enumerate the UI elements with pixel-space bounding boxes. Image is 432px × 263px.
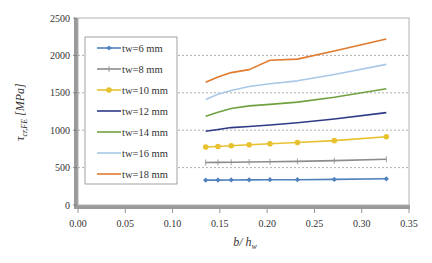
y-tick-label: 2500 xyxy=(50,13,70,24)
y-axis-ticks: 05001000150020002500 xyxy=(50,13,77,211)
circle-marker xyxy=(295,140,301,146)
circle-marker xyxy=(106,87,112,93)
x-tick-label: 0.25 xyxy=(306,218,324,229)
plot-shadow xyxy=(74,18,78,209)
x-tick-label: 0.35 xyxy=(400,218,418,229)
legend-label: tw=16 mm xyxy=(122,148,168,159)
circle-marker xyxy=(228,143,234,149)
circle-marker xyxy=(384,134,390,140)
circle-marker xyxy=(215,144,221,150)
legend-label: tw=14 mm xyxy=(122,127,168,138)
legend-label: tw=8 mm xyxy=(122,64,163,75)
x-tick-label: 0.30 xyxy=(353,218,371,229)
legend-label: tw=10 mm xyxy=(122,85,168,96)
y-tick-label: 0 xyxy=(65,200,70,211)
y-tick-label: 2000 xyxy=(50,50,70,61)
y-axis-label: τcr,FE [MPa] xyxy=(13,83,29,141)
x-tick-label: 0.05 xyxy=(117,218,135,229)
x-axis-ticks: 0.000.050.100.150.200.250.300.35 xyxy=(69,209,418,229)
plot-shadow-bottom xyxy=(74,205,410,209)
y-tick-label: 1000 xyxy=(50,125,70,136)
circle-marker xyxy=(203,144,209,150)
chart: 05001000150020002500 0.000.050.100.150.2… xyxy=(0,0,432,263)
x-tick-label: 0.00 xyxy=(69,218,87,229)
x-tick-label: 0.15 xyxy=(211,218,229,229)
legend-label: tw=18 mm xyxy=(122,169,168,180)
circle-marker xyxy=(267,141,273,147)
circle-marker xyxy=(331,138,337,144)
circle-marker xyxy=(246,142,252,148)
legend-label: tw=6 mm xyxy=(122,43,163,54)
legend-label: tw=12 mm xyxy=(122,106,168,117)
y-tick-label: 500 xyxy=(55,162,70,173)
x-tick-label: 0.10 xyxy=(164,218,182,229)
y-tick-label: 1500 xyxy=(50,87,70,98)
x-tick-label: 0.20 xyxy=(258,218,276,229)
x-axis-label: b/ hw xyxy=(233,235,257,251)
